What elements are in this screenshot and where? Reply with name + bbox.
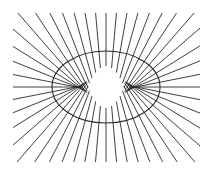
normal-line <box>128 61 200 90</box>
normal-line <box>96 13 101 68</box>
normal-line <box>125 83 178 162</box>
normal-line <box>85 13 96 73</box>
normal-line <box>63 13 90 83</box>
normal-line <box>120 96 138 162</box>
normal-line <box>13 81 86 145</box>
normal-line <box>13 75 83 89</box>
normal-line <box>124 86 163 162</box>
normal-line <box>35 83 88 162</box>
normal-line <box>127 46 200 92</box>
normal-line <box>128 84 200 113</box>
normal-line <box>125 13 177 91</box>
normal-line <box>129 86 200 100</box>
normal-line <box>112 13 117 68</box>
normal-line <box>126 28 200 92</box>
normal-line <box>74 13 92 78</box>
diagram-canvas <box>0 0 211 175</box>
normal-line <box>85 101 96 162</box>
normal-line <box>116 13 127 73</box>
normal-line <box>74 96 92 162</box>
normal-line <box>116 101 127 162</box>
normal-line <box>112 106 117 162</box>
normal-line <box>13 83 85 128</box>
ellipse-evolute-diagram <box>0 0 211 175</box>
normal-line <box>17 82 87 162</box>
normal-lines <box>13 13 200 162</box>
normal-line <box>120 13 138 78</box>
normal-line <box>13 84 84 113</box>
normal-line <box>13 86 83 100</box>
normal-line <box>127 83 200 129</box>
normal-line <box>122 13 149 83</box>
normal-line <box>49 86 88 162</box>
normal-line <box>35 13 87 91</box>
normal-line <box>129 74 200 88</box>
normal-line <box>96 106 101 162</box>
normal-line <box>13 29 86 93</box>
normal-line <box>125 82 195 162</box>
normal-line <box>126 81 200 145</box>
normal-line <box>122 91 149 162</box>
normal-line <box>62 91 89 162</box>
normal-line <box>124 13 162 88</box>
normal-line <box>13 61 84 90</box>
normal-line <box>13 46 85 91</box>
normal-line <box>50 13 88 88</box>
